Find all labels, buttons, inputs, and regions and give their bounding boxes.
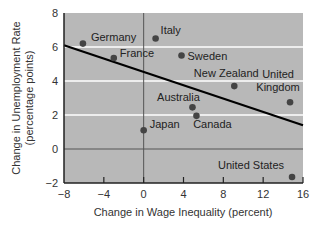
y-tick-label: 6 — [52, 41, 58, 53]
point-label: Germany — [91, 31, 137, 43]
x-tick-label: −8 — [58, 188, 71, 200]
point-marker — [140, 127, 147, 134]
y-axis-ticks: −202468 — [45, 7, 58, 189]
y-tick-label: 8 — [52, 7, 58, 19]
point-label: Canada — [193, 118, 232, 130]
point-label: United — [262, 68, 294, 80]
point-marker — [152, 35, 159, 42]
scatter-chart: GermanyFranceItalySwedenNew ZealandUnite… — [0, 0, 320, 226]
x-tick-label: −4 — [98, 188, 111, 200]
y-tick-label: −2 — [45, 177, 58, 189]
point-marker — [110, 55, 117, 62]
point-label: United States — [218, 159, 285, 171]
x-tick-label: 8 — [220, 188, 226, 200]
point-marker — [289, 174, 296, 181]
point-marker — [231, 83, 238, 90]
y-tick-label: 2 — [52, 109, 58, 121]
point-marker — [178, 52, 185, 59]
y-axis-title: Change in Unemployment Rate(percentage p… — [10, 21, 35, 174]
point-label: Italy — [161, 24, 182, 36]
x-tick-label: 12 — [257, 188, 269, 200]
point-marker — [189, 104, 196, 111]
point-marker — [80, 40, 87, 47]
point-label: France — [120, 47, 154, 59]
point-label: Sweden — [188, 50, 228, 62]
point-label: New Zealand — [194, 67, 259, 79]
x-tick-label: 4 — [180, 188, 186, 200]
x-axis-title: Change in Wage Inequality (percent) — [94, 206, 273, 218]
y-tick-label: 0 — [52, 143, 58, 155]
x-tick-label: 16 — [297, 188, 309, 200]
point-label: Kingdom — [256, 81, 299, 93]
point-label: Japan — [150, 118, 180, 130]
point-label: Australia — [157, 91, 201, 103]
y-tick-label: 4 — [52, 75, 58, 87]
point-marker — [287, 99, 294, 106]
x-tick-label: 0 — [141, 188, 147, 200]
